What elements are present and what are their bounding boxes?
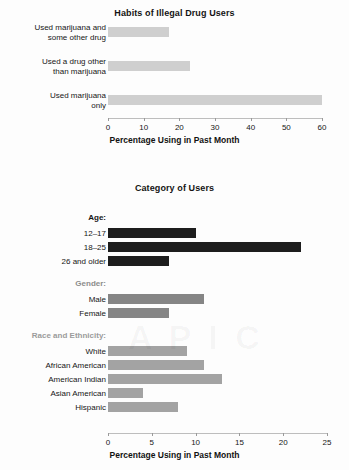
row-label-line-1: Used marijuana and	[34, 23, 106, 32]
row-label: Used a drug otherthan marijuana	[10, 57, 106, 76]
row-label: African American	[46, 361, 106, 370]
group-header-raceandethnicity: Race and Ethnicity:	[32, 331, 106, 340]
x-axis-tick-label: 60	[318, 123, 327, 132]
x-axis-tick-label: 15	[235, 438, 244, 447]
bar-american-indian	[108, 374, 222, 384]
x-axis-tick	[283, 433, 284, 436]
x-axis-tick	[215, 118, 216, 121]
row-label: American Indian	[48, 375, 106, 384]
x-axis-tick-label: 40	[246, 123, 255, 132]
x-axis-tick	[286, 118, 287, 121]
chart-row: Asian American	[0, 387, 349, 399]
bar-asian-american	[108, 388, 143, 398]
x-axis-line	[108, 433, 327, 434]
row-label: Used marijuanaonly	[10, 91, 106, 110]
group-header-age: Age:	[88, 213, 106, 222]
chart-row: African American	[0, 359, 349, 371]
chart-row: Male	[0, 293, 349, 305]
x-axis-tick	[152, 433, 153, 436]
bar-2	[108, 61, 190, 71]
plot-area-bottom: Age:12–1718–2526 and olderGender:MaleFem…	[0, 193, 349, 455]
figure-page: Habits of Illegal Drug Users Used mariju…	[0, 0, 349, 470]
row-label: Asian American	[50, 389, 106, 398]
bar-male	[108, 294, 204, 304]
row-label: White	[86, 347, 106, 356]
x-axis-tick	[179, 118, 180, 121]
bar-3	[108, 95, 322, 105]
group-header-gender: Gender:	[75, 279, 106, 288]
row-label-line-2: some other drug	[48, 32, 106, 41]
x-axis-tick-label: 0	[106, 438, 110, 447]
x-axis-tick-label: 30	[211, 123, 220, 132]
row-label: Used marijuana andsome other drug	[10, 23, 106, 42]
plot-area-top: Used marijuana andsome other drugUsed a …	[0, 18, 349, 122]
x-axis-tick-label: 20	[175, 123, 184, 132]
x-axis-tick-label: 25	[323, 438, 332, 447]
x-axis-tick	[251, 118, 252, 121]
chart-row: Used marijuana andsome other drug	[0, 26, 349, 38]
x-axis-tick	[239, 433, 240, 436]
chart-row: White	[0, 345, 349, 357]
chart-title-bottom: Category of Users	[0, 183, 349, 193]
bar-african-american	[108, 360, 204, 370]
chart-title-top: Habits of Illegal Drug Users	[0, 8, 349, 18]
x-axis-tick	[108, 433, 109, 436]
group-header-row: Race and Ethnicity:	[0, 329, 349, 341]
x-axis-tick	[196, 433, 197, 436]
chart-habits-of-illegal-drug-users: Habits of Illegal Drug Users Used mariju…	[0, 8, 349, 122]
bar-female	[108, 308, 169, 318]
chart-row: Used marijuanaonly	[0, 94, 349, 106]
x-axis-title: Percentage Using in Past Month	[0, 450, 349, 460]
bar-1	[108, 27, 169, 37]
group-header-row: Gender:	[0, 277, 349, 289]
bar-12-17	[108, 228, 196, 238]
x-axis-tick-label: 50	[282, 123, 291, 132]
x-axis-tick	[327, 433, 328, 436]
row-label-line-1: Used a drug other	[42, 57, 106, 66]
x-axis-tick-label: 20	[279, 438, 288, 447]
chart-row: American Indian	[0, 373, 349, 385]
bar-18-25	[108, 242, 301, 252]
bar-26-and-older	[108, 256, 169, 266]
x-axis-tick	[322, 118, 323, 121]
chart-row: Female	[0, 307, 349, 319]
row-label: 12–17	[84, 229, 106, 238]
x-axis-tick-label: 0	[106, 123, 110, 132]
row-label: Female	[79, 309, 106, 318]
bar-hispanic	[108, 402, 178, 412]
row-label-line-1: Used marijuana	[50, 91, 106, 100]
row-label: Male	[89, 295, 106, 304]
chart-row: 26 and older	[0, 255, 349, 267]
group-header-row: Age:	[0, 211, 349, 223]
x-axis-tick	[108, 118, 109, 121]
chart-category-of-users: Category of Users Age:12–1718–2526 and o…	[0, 183, 349, 455]
x-axis-title: Percentage Using in Past Month	[0, 135, 349, 145]
chart-row: Hispanic	[0, 401, 349, 413]
x-axis-tick	[144, 118, 145, 121]
chart-row: 18–25	[0, 241, 349, 253]
row-label-line-2: only	[91, 100, 106, 109]
row-label: 18–25	[84, 243, 106, 252]
row-label-line-2: than marijuana	[53, 66, 106, 75]
bar-white	[108, 346, 187, 356]
chart-row: Used a drug otherthan marijuana	[0, 60, 349, 72]
row-label: Hispanic	[75, 403, 106, 412]
x-axis-tick-label: 5	[150, 438, 154, 447]
x-axis-tick-label: 10	[191, 438, 200, 447]
chart-row: 12–17	[0, 227, 349, 239]
row-label: 26 and older	[62, 257, 106, 266]
x-axis-tick-label: 10	[139, 123, 148, 132]
